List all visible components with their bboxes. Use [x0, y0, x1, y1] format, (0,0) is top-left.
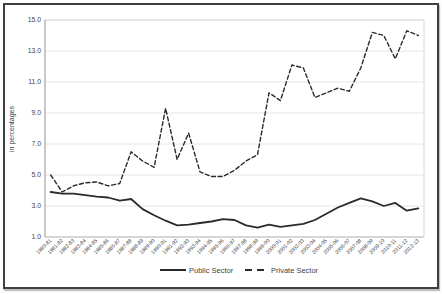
series-line-private-sector	[51, 31, 419, 192]
plot-border	[45, 20, 424, 237]
chart-frame: 1.03.05.07.09.011.013.015.01980-811981-8…	[3, 3, 439, 289]
y-axis-title: in percentages	[8, 106, 16, 152]
line-chart: 1.03.05.07.09.011.013.015.01980-811981-8…	[5, 5, 437, 287]
y-tick-label: 5.0	[32, 171, 42, 178]
y-tick-label: 15.0	[28, 16, 41, 23]
y-tick-label: 9.0	[32, 109, 42, 116]
legend: Public Sector Private Sector	[160, 266, 319, 275]
y-tick-label: 11.0	[28, 78, 41, 85]
legend-label-public-sector: Public Sector	[189, 266, 234, 275]
legend-label-private-sector: Private Sector	[271, 266, 319, 275]
series-line-public-sector	[51, 192, 419, 228]
plot-area: 1.03.05.07.09.011.013.015.01980-811981-8…	[28, 16, 424, 255]
y-tick-label: 1.0	[32, 233, 42, 240]
y-tick-label: 3.0	[32, 202, 42, 209]
y-tick-label: 13.0	[28, 47, 41, 54]
y-tick-label: 7.0	[32, 140, 42, 147]
